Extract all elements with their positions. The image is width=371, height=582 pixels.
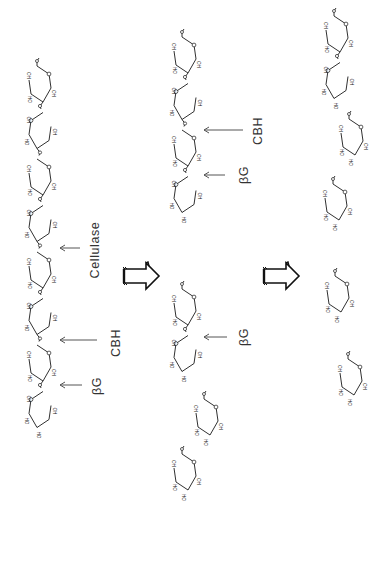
substituent-label: HO	[332, 224, 337, 231]
substituent-label: OH	[26, 165, 31, 172]
substituent-label: HO	[27, 96, 32, 103]
glucose-unit: OHOHHO	[26, 252, 56, 295]
substituent-label: HO	[172, 484, 177, 491]
cellulase-label: Cellulase	[88, 222, 102, 279]
bg-label: βG	[90, 377, 104, 395]
glucose-unit: OHOHHOHO	[324, 268, 354, 323]
substituent-label: OH	[197, 100, 202, 107]
substituent-label: HO	[203, 439, 208, 446]
stage-glucose-products: OHOHHOOHHOOHHOOHOHHOHOOHOHHOHOOHOHHOHOOH…	[321, 8, 368, 406]
stage-intermediate-oligomers: OHOHHOOHHOOHOHOHHOOHHOOHHOOHOHHOOHHOOHHO…	[169, 29, 223, 501]
substituent-label: OH	[171, 181, 176, 188]
glucose-unit: OHOHHO	[323, 8, 353, 59]
bg-enzyme-arrow: βG	[204, 328, 251, 346]
substituent-label: HO	[333, 103, 338, 110]
substituent-label: HO	[24, 325, 29, 332]
glucose-monomer: OHOHHOHO	[322, 176, 352, 231]
glucose-unit: OHHOOH	[24, 299, 57, 342]
substituent-label: OH	[323, 67, 328, 74]
substituent-label: OH	[51, 90, 56, 97]
substituent-label: OH	[338, 125, 343, 132]
glucose-unit: OHOHHOHO	[322, 176, 352, 231]
glucose-unit: OHOHHOHO	[193, 391, 223, 446]
substituent-label: OH	[171, 43, 176, 50]
glucose-unit: OHOHHOHO	[171, 446, 201, 501]
substituent-label: HO	[172, 160, 177, 167]
substituent-label: HO	[27, 282, 32, 289]
substituent-label: OH	[26, 258, 31, 265]
glucose-monomer: OHOHHOHO	[171, 446, 201, 501]
glucose-unit: OHHOOHHO	[169, 336, 202, 383]
bg-label: βG	[237, 328, 251, 346]
cellulase-enzyme-arrow: Cellulase	[60, 222, 102, 279]
glucose-monomer: OHOHHOHO	[337, 351, 367, 406]
substituent-label: OH	[193, 405, 198, 412]
cbh-label: CBH	[251, 117, 265, 145]
glucose-unit: OHOHHO	[171, 29, 201, 80]
substituent-label: OH	[51, 369, 56, 376]
substituent-label: HO	[321, 89, 326, 96]
diagram-canvas: OHOHHOOHHOOHOHOHHOOHHOOHOHOHHOOHHOOHOHOH…	[0, 0, 371, 582]
oligosaccharide-chain: OHOHHOOHHOOHOHOHHOOHHOOHOHOHHOOHHOOHOHOH…	[24, 58, 57, 439]
substituent-label: OH	[26, 72, 31, 79]
substituent-label: OH	[26, 396, 31, 403]
substituent-label: OH	[171, 295, 176, 302]
oligosaccharide-chain: OHOHHOOHHOOHHO	[169, 281, 202, 383]
substituent-label: OH	[171, 136, 176, 143]
bg-enzyme-arrow: βG	[204, 166, 251, 184]
substituent-label: OH	[362, 383, 367, 390]
substituent-label: HO	[36, 432, 41, 439]
cellulose-hydrolysis-diagram: OHOHHOOHHOOHOHOHHOOHHOOHOHOHHOOHHOOHOHOH…	[0, 0, 371, 582]
glucose-unit: OHOHHO	[26, 159, 56, 202]
substituent-label: HO	[324, 46, 329, 53]
substituent-label: OH	[26, 351, 31, 358]
substituent-label: HO	[347, 399, 352, 406]
substituent-label: HO	[24, 418, 29, 425]
glucose-unit: OHHOOHHO	[24, 392, 57, 439]
substituent-label: OH	[348, 40, 353, 47]
substituent-label: OH	[171, 460, 176, 467]
substituent-label: OH	[196, 313, 201, 320]
substituent-label: HO	[348, 159, 353, 166]
glucose-monomer: OHOHHOHO	[338, 111, 368, 166]
substituent-label: OH	[196, 154, 201, 161]
glucose-unit: OHHOOHHO	[169, 177, 202, 224]
substituent-label: OH	[324, 282, 329, 289]
substituent-label: HO	[339, 149, 344, 156]
cbh-enzyme-arrow: CBH	[60, 329, 123, 357]
glucose-unit: OHOHHO	[26, 58, 56, 109]
substituent-label: HO	[172, 67, 177, 74]
substituent-label: OH	[26, 117, 31, 124]
substituent-label: HO	[24, 139, 29, 146]
oligosaccharide-chain: OHOHHOOHHOOHOHOHHOOHHOOHHO	[169, 29, 202, 224]
substituent-label: HO	[323, 214, 328, 221]
bg-enzyme-arrow: βG	[60, 377, 104, 395]
glucose-unit: OHHOOH	[24, 206, 57, 249]
substituent-label: HO	[24, 232, 29, 239]
substituent-label: OH	[196, 478, 201, 485]
substituent-label: HO	[169, 203, 174, 210]
glucose-monomer: OHOHHOHO	[324, 268, 354, 323]
substituent-label: HO	[172, 319, 177, 326]
glucose-unit: OHOHHO	[26, 345, 56, 388]
substituent-label: HO	[181, 376, 186, 383]
substituent-label: OH	[349, 79, 354, 86]
step-2-block-arrow-icon	[263, 262, 299, 289]
substituent-label: OH	[337, 365, 342, 372]
substituent-label: HO	[27, 189, 32, 196]
substituent-label: OH	[26, 210, 31, 217]
glucose-unit: OHHOOH	[24, 113, 57, 156]
process-arrows-layer	[123, 262, 299, 289]
substituent-label: OH	[52, 315, 57, 322]
substituent-label: OH	[218, 423, 223, 430]
substituent-label: OH	[197, 352, 202, 359]
substituent-label: HO	[169, 110, 174, 117]
substituent-label: OH	[52, 129, 57, 136]
substituent-label: OH	[171, 88, 176, 95]
glucose-unit: OHOHHOHO	[338, 111, 368, 166]
substituent-label: HO	[169, 362, 174, 369]
substituent-label: OH	[51, 183, 56, 190]
bg-label: βG	[237, 166, 251, 184]
substituent-label: OH	[26, 303, 31, 310]
enzyme-arrows-layer: CellulaseCBHβGCBHβGβG	[60, 117, 265, 395]
